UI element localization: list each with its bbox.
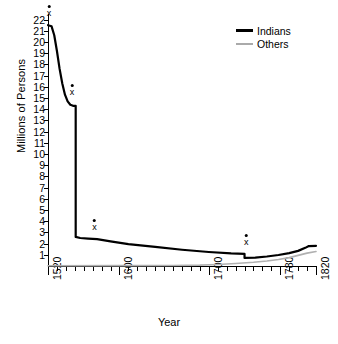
y-tick-label: 19: [33, 48, 45, 59]
x-tick-minor: [146, 266, 147, 271]
y-tick-label: 10: [33, 149, 45, 160]
y-tick-label: 12: [33, 126, 45, 137]
marker-x-label: x: [244, 238, 249, 246]
y-tick-label: 21: [33, 26, 45, 37]
y-tick-label: 14: [33, 104, 45, 115]
x-tick-minor: [262, 266, 263, 271]
x-tick-minor: [236, 266, 237, 271]
y-tick-label: 18: [33, 59, 45, 70]
data-point-marker: x: [47, 5, 52, 17]
x-tick-minor: [137, 266, 138, 271]
y-tick-label: 5: [39, 205, 45, 216]
x-tick-minor: [173, 266, 174, 271]
marker-x-label: x: [70, 88, 75, 96]
x-tick-minor: [84, 266, 85, 271]
y-tick-label: 11: [34, 138, 45, 149]
x-tick-major: [209, 266, 210, 275]
y-tick-label: 20: [33, 37, 45, 48]
x-tick-minor: [66, 266, 67, 271]
y-tick-label: 8: [39, 171, 45, 182]
y-tick-label: 22: [33, 14, 45, 25]
x-tick-minor: [245, 266, 246, 271]
y-axis-title: Millions of Persons: [15, 41, 27, 171]
x-tick-minor: [227, 266, 228, 271]
x-tick-minor: [271, 266, 272, 271]
y-tick-label: 2: [39, 238, 45, 249]
y-tick-label: 15: [33, 93, 45, 104]
legend-item-others: Others: [236, 37, 291, 50]
y-tick-label: 1: [39, 250, 45, 261]
marker-x-label: x: [92, 223, 97, 231]
x-tick-major: [316, 266, 317, 275]
legend-swatch-others-icon: [236, 43, 253, 45]
chart-container: Millions of Persons Year 123456789101112…: [0, 0, 338, 344]
x-tick-label: 1820: [320, 257, 331, 280]
x-tick-minor: [182, 266, 183, 271]
y-tick-label: 17: [33, 70, 45, 81]
legend-item-indians: Indians: [236, 24, 291, 37]
chart-legend: Indians Others: [236, 24, 291, 50]
legend-label-others: Others: [257, 38, 289, 50]
marker-x-label: x: [47, 9, 52, 17]
x-tick-major: [119, 266, 120, 275]
x-tick-minor: [102, 266, 103, 271]
x-tick-minor: [253, 266, 254, 271]
x-tick-minor: [75, 266, 76, 271]
y-tick-label: 7: [39, 182, 45, 193]
x-tick-minor: [298, 266, 299, 271]
data-point-marker: x: [244, 234, 249, 246]
x-tick-minor: [155, 266, 156, 271]
x-tick-major: [48, 266, 49, 275]
y-tick-label: 4: [39, 216, 45, 227]
y-tick-label: 16: [33, 82, 45, 93]
x-tick-minor: [307, 266, 308, 271]
y-tick-label: 6: [39, 194, 45, 205]
y-tick-label: 9: [39, 160, 45, 171]
data-point-marker: x: [70, 84, 75, 96]
y-tick-label: 13: [33, 115, 45, 126]
x-axis-title: Year: [0, 316, 338, 328]
data-point-marker: x: [92, 219, 97, 231]
series-line-indians: [48, 25, 316, 258]
x-tick-minor: [93, 266, 94, 271]
series-line-others: [48, 251, 316, 265]
y-tick-label: 3: [39, 227, 45, 238]
x-tick-minor: [191, 266, 192, 271]
legend-label-indians: Indians: [257, 25, 291, 37]
x-tick-major: [280, 266, 281, 275]
series-lines: [48, 14, 316, 266]
x-tick-minor: [111, 266, 112, 271]
x-tick-minor: [164, 266, 165, 271]
x-tick-minor: [200, 266, 201, 271]
plot-area: 12345678910111213141516171819202122 1520…: [48, 14, 316, 266]
legend-swatch-indians-icon: [236, 29, 253, 32]
